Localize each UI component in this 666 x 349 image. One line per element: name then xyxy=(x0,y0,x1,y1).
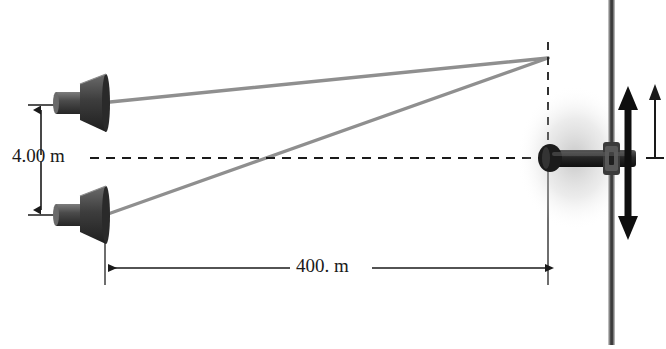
distance-label: 400. m xyxy=(296,256,349,275)
loudspeaker-icon-upper xyxy=(53,74,110,132)
loudspeaker-icon-lower xyxy=(53,186,110,244)
diagram-canvas: 4.00 m 400. m xyxy=(0,0,666,349)
displacement-arrow-up xyxy=(646,84,664,158)
sound-ray-group xyxy=(108,58,548,214)
separation-label: 4.00 m xyxy=(12,146,65,165)
diagram-svg xyxy=(0,0,666,349)
